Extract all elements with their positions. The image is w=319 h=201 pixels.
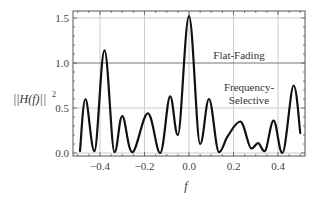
- y-tick-label: 1.0: [55, 57, 69, 69]
- frequency-response-chart: −0.4−0.20.00.20.4 0.00.51.01.5 Flat-Fadi…: [0, 0, 319, 201]
- frequency-selective-annotation-line2: Selective: [229, 94, 269, 106]
- y-tick-label: 1.5: [55, 12, 69, 24]
- frequency-selective-annotation-line1: Frequency-: [224, 81, 274, 93]
- x-axis-label: f: [184, 179, 189, 193]
- x-tick-label: −0.2: [135, 160, 155, 172]
- y-tick-labels: 0.00.51.01.5: [55, 12, 69, 159]
- flat-fading-annotation: Flat-Fading: [213, 49, 265, 61]
- x-tick-labels: −0.4−0.20.00.20.4: [90, 160, 285, 172]
- x-tick-label: 0.0: [182, 160, 196, 172]
- x-tick-label: −0.4: [90, 160, 110, 172]
- x-tick-label: 0.4: [271, 160, 285, 172]
- y-tick-label: 0.5: [55, 102, 69, 114]
- y-axis-label-superscript: 2: [52, 90, 56, 99]
- x-tick-label: 0.2: [227, 160, 241, 172]
- y-tick-label: 0.0: [55, 147, 69, 159]
- y-axis-label-main: ||H(f)||: [13, 92, 46, 106]
- y-axis-label: ||H(f)|| 2: [13, 90, 56, 106]
